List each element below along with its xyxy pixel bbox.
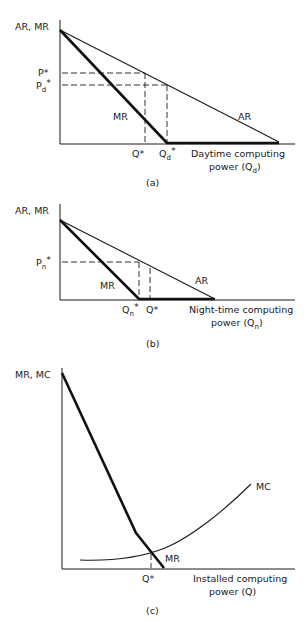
- panel-a-ar-curve: [60, 30, 279, 142]
- panel-a: AR, MR P* Pd* MR AR Q* Qd* Daytime compu…: [15, 20, 295, 188]
- panel-c-mc-label: MC: [256, 481, 271, 492]
- panel-b-qn-star-label: Qn*: [122, 301, 139, 318]
- panel-b: AR, MR Pn* MR AR Qn* Q* Night-time compu…: [15, 204, 295, 349]
- panel-c-q-star-label: Q*: [142, 573, 154, 584]
- panel-b-ar-curve: [60, 220, 215, 299]
- panel-c-x-axis-label-line1: Installed computing: [193, 573, 287, 584]
- panel-a-q-star-label: Q*: [132, 148, 144, 159]
- panel-a-pd-star-label: Pd*: [36, 77, 51, 94]
- panel-b-mr-label: MR: [100, 280, 115, 291]
- panel-b-y-axis-label: AR, MR: [15, 205, 49, 216]
- panel-b-x-axis-label-line2: power (Qn): [211, 317, 263, 331]
- panel-a-mr-label: MR: [113, 111, 128, 122]
- panel-b-caption: (b): [146, 338, 159, 349]
- panel-c-mr-curve: [62, 373, 164, 568]
- panel-c-mr-label: MR: [165, 553, 180, 564]
- panel-c-mc-curve: [80, 484, 251, 560]
- panel-b-q-star-label: Q*: [146, 304, 158, 315]
- panel-b-pn-star-label: Pn*: [36, 254, 51, 271]
- diagram-canvas: AR, MR P* Pd* MR AR Q* Qd* Daytime compu…: [0, 0, 307, 622]
- panel-a-x-axis-label-line1: Daytime computing: [191, 148, 285, 159]
- panel-c-x-axis-label-line2: power (Q): [209, 586, 256, 597]
- panel-b-x-axis-label-line1: Night-time computing: [189, 304, 293, 315]
- panel-c-caption: (c): [146, 605, 159, 616]
- panel-c: MR, MC MC MR Q* Installed computing powe…: [15, 368, 295, 616]
- panel-a-caption: (a): [146, 177, 159, 188]
- panel-a-qd-star-label: Qd*: [159, 145, 176, 162]
- panel-a-y-axis-label: AR, MR: [15, 21, 49, 32]
- panel-a-ar-label: AR: [238, 111, 251, 122]
- panel-c-y-axis-label: MR, MC: [15, 369, 51, 380]
- panel-b-ar-label: AR: [195, 275, 208, 286]
- panel-a-x-axis-label-line2: power (Qd): [209, 161, 261, 175]
